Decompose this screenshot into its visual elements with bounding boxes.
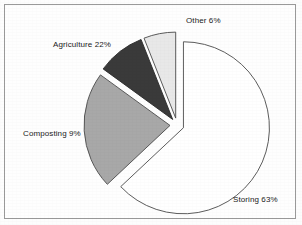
pie-chart-screenshot: Other 6% Agriculture 22% Composting 9% S… [0,0,302,225]
chart-frame: Other 6% Agriculture 22% Composting 9% S… [4,4,296,219]
pie-label-composting: Composting 9% [23,129,81,138]
pie-chart-graphic [5,5,295,218]
pie-label-other: Other 6% [186,16,221,25]
pie-label-agriculture: Agriculture 22% [53,40,111,49]
pie-label-storing: Storing 63% [233,195,278,204]
